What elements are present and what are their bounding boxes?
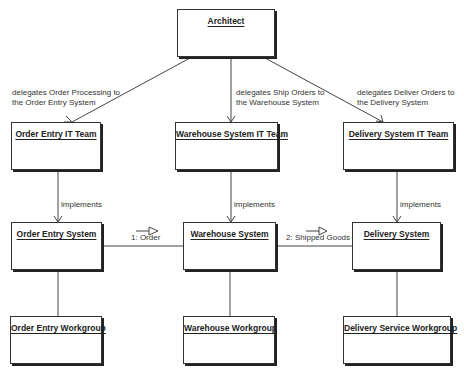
order-entry-workgroup-node[interactable]: Order Entry Workgroup bbox=[10, 316, 102, 364]
node-title: Delivery Service Workgroup bbox=[344, 323, 450, 333]
warehouse-workgroup-node[interactable]: Warehouse Workgroup bbox=[183, 316, 275, 364]
delegates-deliver-label: delegates Deliver Orders to the Delivery… bbox=[357, 88, 454, 108]
architect-node[interactable]: Architect bbox=[177, 9, 275, 57]
delivery-system-node[interactable]: Delivery System bbox=[352, 222, 441, 270]
delegates-order-label: delegates Order Processing to the Order … bbox=[12, 88, 120, 108]
order-entry-it-team-node[interactable]: Order Entry IT Team bbox=[11, 122, 101, 170]
delivery-service-workgroup-node[interactable]: Delivery Service Workgroup bbox=[343, 316, 451, 364]
node-title: Delivery System bbox=[353, 229, 440, 239]
label-line: the Delivery System bbox=[357, 98, 454, 108]
label-line: the Warehouse System bbox=[236, 98, 325, 108]
node-title: Order Entry System bbox=[12, 229, 101, 239]
order-entry-system-node[interactable]: Order Entry System bbox=[11, 222, 102, 270]
implements-label-2: implements bbox=[234, 200, 275, 210]
node-title: Architect bbox=[178, 16, 274, 26]
label-line: the Order Entry System bbox=[12, 98, 120, 108]
node-title: Warehouse Workgroup bbox=[184, 323, 274, 333]
message-order-label: 1: Order bbox=[131, 233, 160, 243]
node-title: Delivery System IT Team bbox=[344, 129, 453, 139]
node-title: Warehouse System bbox=[184, 229, 275, 239]
implements-label-1: implements bbox=[61, 200, 102, 210]
label-line: delegates Order Processing to bbox=[12, 88, 120, 98]
warehouse-system-node[interactable]: Warehouse System bbox=[183, 222, 276, 270]
delivery-system-it-team-node[interactable]: Delivery System IT Team bbox=[343, 122, 454, 170]
implements-label-3: implements bbox=[400, 200, 441, 210]
node-title: Order Entry Workgroup bbox=[11, 323, 101, 333]
node-title: Order Entry IT Team bbox=[12, 129, 100, 139]
node-title: Warehouse System IT Team bbox=[176, 129, 277, 139]
label-line: delegates Ship Orders to bbox=[236, 88, 325, 98]
delegates-ship-label: delegates Ship Orders to the Warehouse S… bbox=[236, 88, 325, 108]
warehouse-system-it-team-node[interactable]: Warehouse System IT Team bbox=[175, 122, 278, 170]
label-line: delegates Deliver Orders to bbox=[357, 88, 454, 98]
message-shipped-goods-label: 2: Shipped Goods bbox=[286, 233, 350, 243]
